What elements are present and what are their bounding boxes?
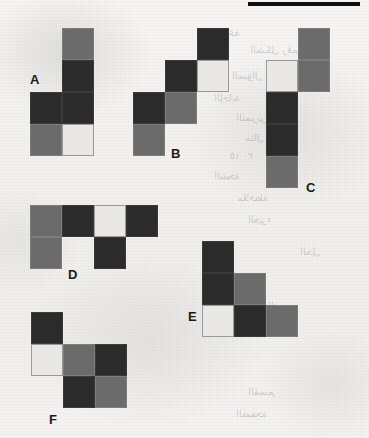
shape-label-d: D [68,267,77,282]
shape-e-cell[interactable] [202,305,234,337]
shape-b-cell[interactable] [133,124,165,156]
shape-label-e: E [188,309,197,324]
ghost-text: الصفحة [236,408,267,419]
shape-label-c: C [306,180,315,195]
shape-f-cell[interactable] [63,344,95,376]
ghost-text: الشكل رقم [250,44,299,55]
ghost-text: الحل [300,246,320,257]
shape-d-cell[interactable] [30,205,62,237]
ghost-text: ١٥ ٢٠ [230,150,253,161]
shape-c-cell[interactable] [298,28,330,60]
top-black-bar [248,2,360,6]
shape-b-cell[interactable] [165,92,197,124]
shape-c-cell[interactable] [266,92,298,124]
shape-e-cell[interactable] [202,241,234,273]
shape-f-cell[interactable] [31,344,63,376]
shape-a-cell[interactable] [62,28,94,60]
shape-d-cell[interactable] [94,237,126,269]
shape-label-f: F [49,412,57,427]
ghost-text: ملاحظة [238,192,268,203]
shape-f-cell[interactable] [63,376,95,408]
shape-f-cell[interactable] [95,376,127,408]
shape-d-cell[interactable] [62,205,94,237]
shape-label-b: B [171,146,180,161]
ghost-text: النتيجة [214,170,240,181]
shape-d-cell[interactable] [30,237,62,269]
shape-f-cell[interactable] [95,344,127,376]
shape-c-cell[interactable] [266,60,298,92]
ghost-text: الإجابة [214,92,240,103]
ghost-text: التمرين [236,112,268,123]
shape-d-cell[interactable] [126,205,158,237]
shape-f-cell[interactable] [31,312,63,344]
shape-b-cell[interactable] [197,60,229,92]
shape-a-cell[interactable] [62,60,94,92]
shape-a-cell[interactable] [62,92,94,124]
shape-e-cell[interactable] [266,305,298,337]
shape-a-cell[interactable] [30,124,62,156]
shape-b-cell[interactable] [165,60,197,92]
shape-e-cell[interactable] [234,305,266,337]
ghost-text: الجزء [248,214,271,225]
shape-e-cell[interactable] [202,273,234,305]
ghost-text: السؤال [232,70,262,81]
shape-a-cell[interactable] [62,124,94,156]
shape-e-cell[interactable] [234,273,266,305]
shape-d-cell[interactable] [94,205,126,237]
shape-b-cell[interactable] [197,28,229,60]
shape-c-cell[interactable] [266,156,298,188]
shape-a-cell[interactable] [30,92,62,124]
shape-c-cell[interactable] [298,60,330,92]
shape-label-a: A [30,72,39,87]
shape-c-cell[interactable] [266,124,298,156]
ghost-text: القسم [248,386,275,397]
shape-b-cell[interactable] [133,92,165,124]
